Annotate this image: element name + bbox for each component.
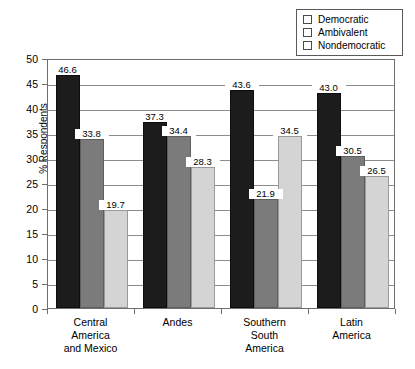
x-category-line: South	[221, 329, 308, 342]
legend-item-democratic: Democratic	[303, 13, 397, 26]
bar-value-label: 33.8	[75, 129, 109, 139]
y-tick-label: 35	[8, 129, 38, 139]
legend-swatch-democratic	[303, 15, 312, 24]
x-category-label-0: CentralAmericaand Mexico	[47, 316, 134, 355]
bar-democratic-1[interactable]	[143, 122, 167, 309]
bar-ambivalent-2[interactable]	[254, 199, 278, 309]
y-tick-label: 45	[8, 79, 38, 89]
y-tick-label: 5	[8, 279, 38, 289]
bar-value-label: 43.6	[225, 80, 259, 90]
bar-nondemocratic-1[interactable]	[191, 167, 215, 309]
bar-value-label: 37.3	[138, 112, 172, 122]
bar-value-label: 43.0	[312, 83, 346, 93]
bar-value-label: 21.9	[249, 189, 283, 199]
bar-value-label: 26.5	[360, 166, 394, 176]
y-tick-label: 50	[8, 54, 38, 64]
x-category-line: and Mexico	[47, 342, 134, 355]
bar-nondemocratic-2[interactable]	[278, 136, 302, 309]
x-tick-mark	[47, 309, 48, 314]
x-category-line: Latin	[308, 316, 395, 329]
x-tick-mark	[134, 309, 135, 314]
x-category-line: Central	[47, 316, 134, 329]
bar-nondemocratic-0[interactable]	[104, 210, 128, 309]
x-category-line: America	[47, 329, 134, 342]
x-tick-mark	[308, 309, 309, 314]
y-tick-label: 15	[8, 229, 38, 239]
bar-value-label: 28.3	[186, 157, 220, 167]
bar-democratic-0[interactable]	[56, 75, 80, 308]
gridline	[48, 110, 394, 111]
bar-ambivalent-0[interactable]	[80, 139, 104, 308]
bar-ambivalent-3[interactable]	[341, 156, 365, 309]
x-category-label-2: SouthernSouthAmerica	[221, 316, 308, 355]
x-category-line: Southern	[221, 316, 308, 329]
bar-value-label: 34.5	[273, 126, 307, 136]
legend-swatch-ambivalent	[303, 28, 312, 37]
y-tick-label: 10	[8, 254, 38, 264]
bar-value-label: 34.4	[162, 126, 196, 136]
x-category-label-1: Andes	[134, 316, 221, 329]
legend-item-ambivalent: Ambivalent	[303, 26, 397, 39]
bar-democratic-3[interactable]	[317, 93, 341, 308]
y-tick-label: 40	[8, 104, 38, 114]
x-category-line: America	[308, 329, 395, 342]
x-category-line: America	[221, 342, 308, 355]
chart-legend: Democratic Ambivalent Nondemocratic	[296, 9, 403, 56]
legend-swatch-nondemocratic	[303, 41, 312, 50]
x-category-label-3: LatinAmerica	[308, 316, 395, 342]
bar-democratic-2[interactable]	[230, 90, 254, 308]
bar-value-label: 19.7	[99, 200, 133, 210]
x-category-line: Andes	[134, 316, 221, 329]
plot-area	[47, 59, 395, 309]
bar-value-label: 30.5	[336, 146, 370, 156]
y-tick-label: 0	[8, 304, 38, 314]
y-tick-label: 25	[8, 179, 38, 189]
bar-nondemocratic-3[interactable]	[365, 176, 389, 309]
x-tick-mark	[221, 309, 222, 314]
legend-label-nondemocratic: Nondemocratic	[318, 40, 385, 51]
legend-item-nondemocratic: Nondemocratic	[303, 39, 397, 52]
y-tick-label: 20	[8, 204, 38, 214]
legend-label-ambivalent: Ambivalent	[318, 27, 367, 38]
legend-label-democratic: Democratic	[318, 14, 369, 25]
y-tick-label: 30	[8, 154, 38, 164]
x-tick-mark	[395, 309, 396, 314]
bar-value-label: 46.6	[51, 65, 85, 75]
